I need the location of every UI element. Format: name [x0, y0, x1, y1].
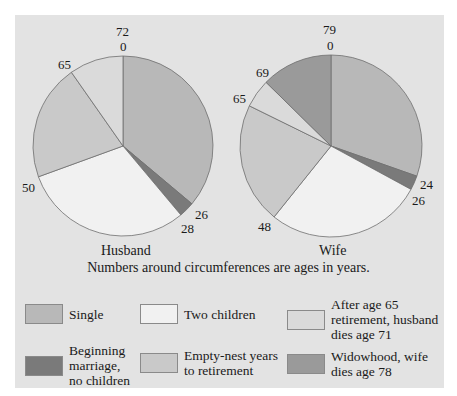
husband-pie — [33, 56, 213, 236]
chart-note: Numbers around circumferences are ages i… — [0, 260, 457, 276]
legend-swatch-single — [25, 304, 63, 324]
legend-item-two-children: Two children — [140, 304, 255, 324]
legend-swatch-empty-nest — [140, 353, 178, 373]
legend-item-empty-nest: Empty-nest years to retirement — [140, 348, 280, 378]
husband-label-26: 26 — [195, 208, 208, 221]
wife-label-0: 0 — [327, 39, 334, 52]
legend-swatch-beginning-marriage — [25, 356, 63, 376]
legend-label: Beginning marriage, no children — [69, 343, 133, 388]
legend-label: After age 65 retirement, husband dies ag… — [331, 297, 441, 342]
wife-label-24: 24 — [420, 178, 433, 191]
wife-label-69: 69 — [256, 66, 269, 79]
legend-swatch-after-65 — [287, 310, 325, 330]
legend-item-single: Single — [25, 304, 104, 324]
legend-swatch-widowhood — [287, 354, 325, 374]
legend-item-after-65: After age 65 retirement, husband dies ag… — [287, 297, 441, 342]
husband-label-72: 72 — [116, 25, 129, 38]
legend-item-widowhood: Widowhood, wife dies age 78 — [287, 349, 431, 379]
legend-label: Two children — [184, 307, 255, 322]
legend-label: Single — [69, 307, 104, 322]
legend-swatch-two-children — [140, 304, 178, 324]
wife-label-79: 79 — [323, 23, 336, 36]
wife-label-65: 65 — [233, 92, 246, 105]
legend-label: Widowhood, wife dies age 78 — [331, 349, 431, 379]
legend-label: Empty-nest years to retirement — [184, 348, 280, 378]
husband-label-28: 28 — [181, 222, 194, 235]
legend-item-beginning-marriage: Beginning marriage, no children — [25, 343, 133, 388]
husband-label-65: 65 — [58, 58, 71, 71]
wife-pie — [240, 55, 422, 237]
husband-label-0: 0 — [120, 40, 127, 53]
wife-title: Wife — [319, 243, 346, 259]
husband-title: Husband — [101, 243, 151, 259]
wife-label-26: 26 — [412, 194, 425, 207]
wife-label-48: 48 — [258, 220, 271, 233]
husband-label-50: 50 — [22, 181, 35, 194]
